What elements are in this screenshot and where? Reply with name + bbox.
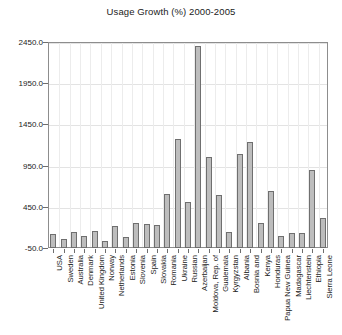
x-axis-tick-label: Moldova, Rep. of [212, 255, 220, 312]
bar [112, 226, 118, 248]
x-axis-tick-label: Kenya [264, 255, 272, 277]
x-axis-tick-mark [198, 249, 199, 253]
x-axis-tick-label: Sierra Leone [326, 255, 334, 298]
x-axis-tick-label: Spain [150, 255, 158, 274]
bar [164, 194, 170, 248]
bar [216, 195, 222, 248]
bar [206, 157, 212, 248]
x-axis-tick-label: Albania [243, 255, 251, 280]
y-axis: -50.0450.0950.01450.01950.02450.0 [0, 0, 48, 335]
bar [278, 236, 284, 248]
bar [50, 234, 56, 248]
x-axis-tick-label: Denmark [87, 255, 95, 286]
bar [247, 142, 253, 248]
bar [61, 239, 67, 248]
bar [123, 237, 129, 248]
x-axis-tick-mark [219, 249, 220, 253]
x-axis-tick-label: Madagascar [295, 255, 303, 297]
x-axis-tick-label: United Kingdom [98, 255, 106, 309]
bars-layer [48, 42, 328, 248]
bar [81, 236, 87, 248]
x-axis-tick-mark [240, 249, 241, 253]
x-axis-tick-label: Australia [77, 255, 85, 285]
x-axis-tick-mark [105, 249, 106, 253]
y-axis-tick-label: 450.0 [23, 202, 43, 211]
x-axis-tick-label: Honduras [274, 255, 282, 288]
x-axis-tick-mark [271, 249, 272, 253]
bar [102, 241, 108, 248]
x-axis-tick-mark [95, 249, 96, 253]
x-axis-tick-mark [64, 249, 65, 253]
x-axis-tick-label: Liechtenstein [305, 255, 313, 300]
x-axis-tick-label: Ethiopia [315, 255, 323, 282]
x-axis-tick-label: Netherlands [118, 255, 126, 296]
x-axis-tick-label: Bosnia and [253, 255, 261, 293]
bar [92, 231, 98, 248]
bar [237, 154, 243, 248]
x-axis-tick-label: Sweden [67, 255, 75, 282]
x-axis-tick-label: Slovenia [139, 255, 147, 284]
bar [133, 223, 139, 248]
x-axis-tick-mark [136, 249, 137, 253]
y-axis-tick-label: 2450.0 [19, 38, 43, 47]
x-axis-tick-mark [302, 249, 303, 253]
x-axis-tick-mark [147, 249, 148, 253]
bar [154, 225, 160, 248]
x-axis-tick-mark [281, 249, 282, 253]
x-axis-tick-mark [178, 249, 179, 253]
x-axis-tick-mark [229, 249, 230, 253]
chart-title: Usage Growth (%) 2000-2005 [0, 6, 342, 17]
x-axis-tick-label: Azerbaijan [201, 255, 209, 291]
x-axis-tick-label: Russian [191, 255, 199, 282]
x-axis: USASwedenAustraliaDenmarkUnited KingdomN… [48, 249, 328, 335]
bar [71, 232, 77, 248]
x-axis-tick-mark [209, 249, 210, 253]
y-axis-tick-label: 1450.0 [19, 120, 43, 129]
x-axis-tick-mark [84, 249, 85, 253]
y-axis-tick-label: -50.0 [25, 244, 43, 253]
x-axis-tick-mark [250, 249, 251, 253]
bar [268, 191, 274, 248]
bar [175, 139, 181, 248]
x-axis-tick-mark [323, 249, 324, 253]
x-axis-tick-mark [53, 249, 54, 253]
bar-chart: Usage Growth (%) 2000-2005 -50.0450.0950… [0, 0, 342, 335]
x-axis-tick-label: Ukraine [181, 255, 189, 281]
x-axis-tick-mark [292, 249, 293, 253]
x-axis-tick-label: Slovakia [160, 255, 168, 284]
bar [299, 233, 305, 248]
bar [195, 46, 201, 248]
y-axis-tick-label: 1950.0 [19, 79, 43, 88]
x-axis-tick-mark [115, 249, 116, 253]
x-axis-tick-mark [157, 249, 158, 253]
bar [320, 218, 326, 248]
x-axis-tick-label: USA [56, 255, 64, 271]
x-axis-tick-label: Estonia [129, 255, 137, 280]
bar [309, 170, 315, 248]
y-axis-tick-label: 950.0 [23, 161, 43, 170]
bar [289, 233, 295, 248]
bar [258, 223, 264, 248]
bar [226, 232, 232, 248]
x-axis-tick-mark [126, 249, 127, 253]
x-axis-tick-mark [188, 249, 189, 253]
x-axis-tick-mark [74, 249, 75, 253]
x-axis-tick-mark [312, 249, 313, 253]
bar [144, 224, 150, 248]
x-axis-tick-label: Papua New Guinea [284, 255, 292, 321]
x-axis-tick-label: Romania [170, 255, 178, 285]
bar [185, 202, 191, 248]
x-axis-tick-label: Gualemala [222, 255, 230, 292]
x-axis-tick-mark [167, 249, 168, 253]
x-axis-tick-label: Norway [108, 255, 116, 281]
x-axis-tick-label: Kyrgyzstan [232, 255, 240, 293]
x-axis-tick-mark [261, 249, 262, 253]
